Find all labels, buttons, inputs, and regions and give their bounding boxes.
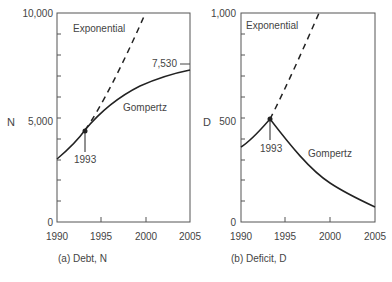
y-tick-top: 10,000 [22, 8, 53, 19]
y-ticks [57, 34, 146, 222]
plot-frame [241, 13, 375, 222]
y-tick-top: 1,000 [211, 8, 236, 19]
asymptote-label: 7,530 [152, 58, 177, 69]
x-tick-2005: 2005 [179, 231, 202, 242]
y-axis-label: N [7, 116, 15, 128]
chart-figure: 10,000 5,000 0 N 1990 1995 2000 2005 Exp… [0, 0, 392, 282]
y-axis-label: D [203, 116, 211, 128]
plot-frame [57, 13, 190, 222]
point-label: 1993 [74, 154, 97, 165]
x-tick-2005: 2005 [364, 231, 387, 242]
y-ticks [241, 34, 330, 222]
gompertz-curve [270, 119, 375, 207]
y-tick-mid: 5,000 [28, 116, 53, 127]
x-tick-2000: 2000 [135, 231, 158, 242]
exponential-label: Exponential [246, 20, 298, 31]
gompertz-label: Gompertz [123, 102, 167, 113]
gompertz-curve [57, 70, 190, 159]
y-tick-zero: 0 [47, 217, 53, 228]
caption: (a) Debt, N [58, 253, 107, 264]
debt-chart: 10,000 5,000 0 N 1990 1995 2000 2005 Exp… [7, 8, 202, 264]
gompertz-label: Gompertz [308, 148, 352, 159]
deficit-chart: 1,000 500 0 D 1990 1995 2000 2005 Expone… [203, 8, 387, 264]
x-tick-2000: 2000 [319, 231, 342, 242]
y-tick-mid: 500 [219, 116, 236, 127]
exponential-label: Exponential [73, 23, 125, 34]
x-tick-1995: 1995 [274, 231, 297, 242]
x-tick-1990: 1990 [46, 231, 69, 242]
caption: (b) Deficit, D [231, 253, 287, 264]
x-tick-1995: 1995 [90, 231, 113, 242]
point-label: 1993 [260, 143, 283, 154]
y-tick-zero: 0 [230, 217, 236, 228]
x-tick-1990: 1990 [230, 231, 253, 242]
